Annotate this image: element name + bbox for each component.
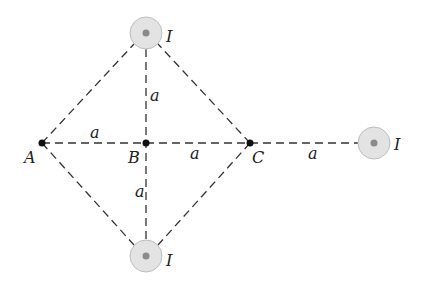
point-b-dot [143, 140, 150, 147]
label-distance-top: a [150, 86, 160, 105]
point-a-dot [39, 140, 46, 147]
wire-right [358, 127, 390, 159]
label-distance-bottom: a [135, 182, 145, 201]
wire-top [130, 17, 162, 49]
label-current-right: I [393, 135, 401, 154]
wire-bottom [130, 240, 162, 272]
point-c-dot [247, 140, 254, 147]
label-distance-bc: a [190, 144, 200, 163]
label-distance-ab: a [90, 123, 100, 142]
label-c: C [252, 148, 264, 167]
label-a: A [22, 148, 36, 167]
label-distance-c-wire: a [308, 144, 318, 163]
label-b: B [127, 148, 140, 167]
label-current-top: I [165, 27, 173, 46]
label-current-bottom: I [165, 251, 173, 270]
physics-diagram: A B C I I I a a a a a [0, 0, 425, 286]
